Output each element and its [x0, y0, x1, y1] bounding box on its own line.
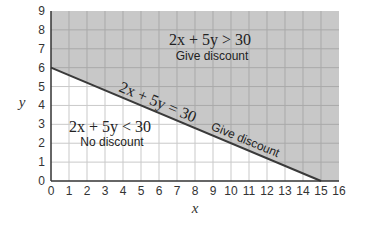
x-tick-label: 8: [192, 184, 199, 198]
x-tick-label: 1: [66, 184, 73, 198]
x-tick-label: 4: [120, 184, 127, 198]
y-tick-label: 7: [38, 42, 45, 56]
x-tick-label: 12: [260, 184, 274, 198]
y-tick-label: 9: [38, 4, 45, 18]
x-tick-label: 14: [296, 184, 310, 198]
x-tick-label: 2: [84, 184, 91, 198]
y-tick-label: 2: [38, 136, 45, 150]
x-axis-label: x: [191, 200, 199, 216]
y-tick-label: 0: [38, 174, 45, 188]
x-tick-label: 7: [174, 184, 181, 198]
x-tick-label: 0: [48, 184, 55, 198]
upper-region-label: Give discount: [176, 49, 249, 63]
y-tick-label: 5: [38, 80, 45, 94]
y-tick-label: 6: [38, 61, 45, 75]
x-tick-label: 6: [156, 184, 163, 198]
x-tick-label: 5: [138, 184, 145, 198]
x-tick-label: 11: [243, 184, 256, 198]
inequality-chart: 0123456789101112131415160123456789 x y 2…: [0, 0, 369, 225]
y-tick-label: 3: [38, 117, 45, 131]
y-axis-label: y: [17, 94, 26, 110]
lower-region-inequality: 2x + 5y < 30: [69, 118, 151, 136]
lower-region-label: No discount: [80, 135, 144, 149]
upper-region-inequality: 2x + 5y > 30: [169, 31, 251, 49]
x-tick-label: 15: [314, 184, 328, 198]
x-tick-label: 16: [332, 184, 346, 198]
y-tick-label: 4: [38, 98, 45, 112]
y-tick-label: 1: [38, 155, 45, 169]
x-tick-label: 3: [102, 184, 109, 198]
x-tick-label: 9: [210, 184, 217, 198]
y-tick-label: 8: [38, 23, 45, 37]
x-tick-label: 10: [224, 184, 238, 198]
x-tick-label: 13: [278, 184, 292, 198]
